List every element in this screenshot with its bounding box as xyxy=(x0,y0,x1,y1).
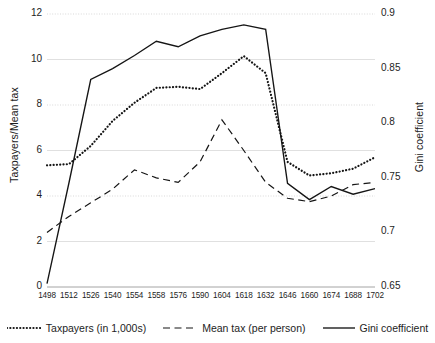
y-axis-left-tick-label: 10 xyxy=(16,53,42,64)
chart-legend: Taxpayers (in 1,000s)Mean tax (per perso… xyxy=(0,322,435,334)
y-axis-left-tick-label: 0 xyxy=(16,280,42,291)
plot-area xyxy=(47,14,375,287)
legend-item-0: Taxpayers (in 1,000s) xyxy=(7,322,146,334)
data-series-group xyxy=(47,25,375,284)
y-axis-right-tick-label: 0.8 xyxy=(381,116,415,127)
y-axis-left-tick-label: 4 xyxy=(16,189,42,200)
legend-swatch-dotted xyxy=(7,324,41,332)
y-axis-left-tick-label: 6 xyxy=(16,144,42,155)
x-axis-tick-label: 1702 xyxy=(360,291,390,300)
y-axis-right-tick-label: 0.7 xyxy=(381,225,415,236)
legend-swatch-solid xyxy=(323,324,355,332)
series-line-2 xyxy=(47,25,375,284)
series-line-1 xyxy=(47,120,375,233)
legend-label: Mean tax (per person) xyxy=(202,322,305,334)
gridlines xyxy=(47,14,375,287)
plot-svg xyxy=(47,14,375,287)
y-axis-right-tick-label: 0.65 xyxy=(381,280,415,291)
y-axis-left-tick-label: 2 xyxy=(16,235,42,246)
chart-figure: Taxpayers/Mean tax Gini coefficient 0246… xyxy=(0,0,435,343)
legend-item-1: Mean tax (per person) xyxy=(163,322,305,334)
series-line-0 xyxy=(47,56,375,175)
legend-swatch-dashed xyxy=(163,324,197,332)
y-axis-right-title: Gini coefficient xyxy=(413,72,425,202)
legend-item-2: Gini coefficient xyxy=(323,322,429,334)
y-axis-right-tick-label: 0.85 xyxy=(381,62,415,73)
y-axis-left-tick-label: 12 xyxy=(16,7,42,18)
y-axis-left-tick-label: 8 xyxy=(16,98,42,109)
y-axis-right-tick-label: 0.75 xyxy=(381,171,415,182)
legend-label: Gini coefficient xyxy=(360,322,429,334)
legend-label: Taxpayers (in 1,000s) xyxy=(46,322,146,334)
y-axis-left-title: Taxpayers/Mean tax xyxy=(8,70,20,200)
y-axis-right-tick-label: 0.9 xyxy=(381,7,415,18)
